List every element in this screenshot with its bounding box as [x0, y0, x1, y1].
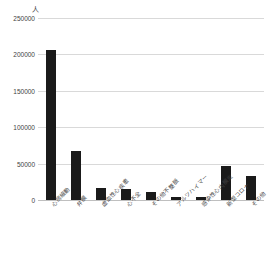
bars-group [38, 18, 264, 200]
x-axis-label-slot: その他不整脈 [138, 200, 163, 250]
bar-slot [214, 18, 239, 200]
x-axis-label-slot: 感染性心内膜炎 [189, 200, 214, 250]
bar-slot [38, 18, 63, 200]
bar-slot [138, 18, 163, 200]
bar-slot [239, 18, 264, 200]
y-axis-tick-label: 250000 [13, 15, 35, 22]
y-axis-tick-label: 50000 [17, 160, 35, 167]
y-axis-unit-label: 人 [32, 5, 39, 14]
x-axis-label-slot: 心房細動 [38, 200, 63, 250]
x-axis-label-slot: 心不全 [113, 200, 138, 250]
bar-slot [88, 18, 113, 200]
bar-slot [164, 18, 189, 200]
x-axis-label-slot: 弁膜 [63, 200, 88, 250]
x-axis-label-slot: 新型コロナ [214, 200, 239, 250]
x-axis-label-slot: その他 [239, 200, 264, 250]
bar-slot [189, 18, 214, 200]
bar-slot [63, 18, 88, 200]
x-axis-label-slot: アルツハイマー [164, 200, 189, 250]
y-axis-tick-label: 150000 [13, 87, 35, 94]
bar[interactable] [46, 50, 56, 200]
y-axis-tick-label: 0 [31, 197, 35, 204]
bar-chart: 人 050000100000150000200000250000 心房細動弁膜虚… [0, 0, 272, 253]
y-axis-tick-label: 100000 [13, 124, 35, 131]
bar-slot [113, 18, 138, 200]
y-axis-tick-label: 200000 [13, 51, 35, 58]
x-axis-label-slot: 虚血性心疾患 [88, 200, 113, 250]
plot-area: 050000100000150000200000250000 [38, 18, 264, 200]
x-axis-labels: 心房細動弁膜虚血性心疾患心不全その他不整脈アルツハイマー感染性心内膜炎新型コロナ… [38, 200, 264, 250]
bar[interactable] [71, 151, 81, 201]
